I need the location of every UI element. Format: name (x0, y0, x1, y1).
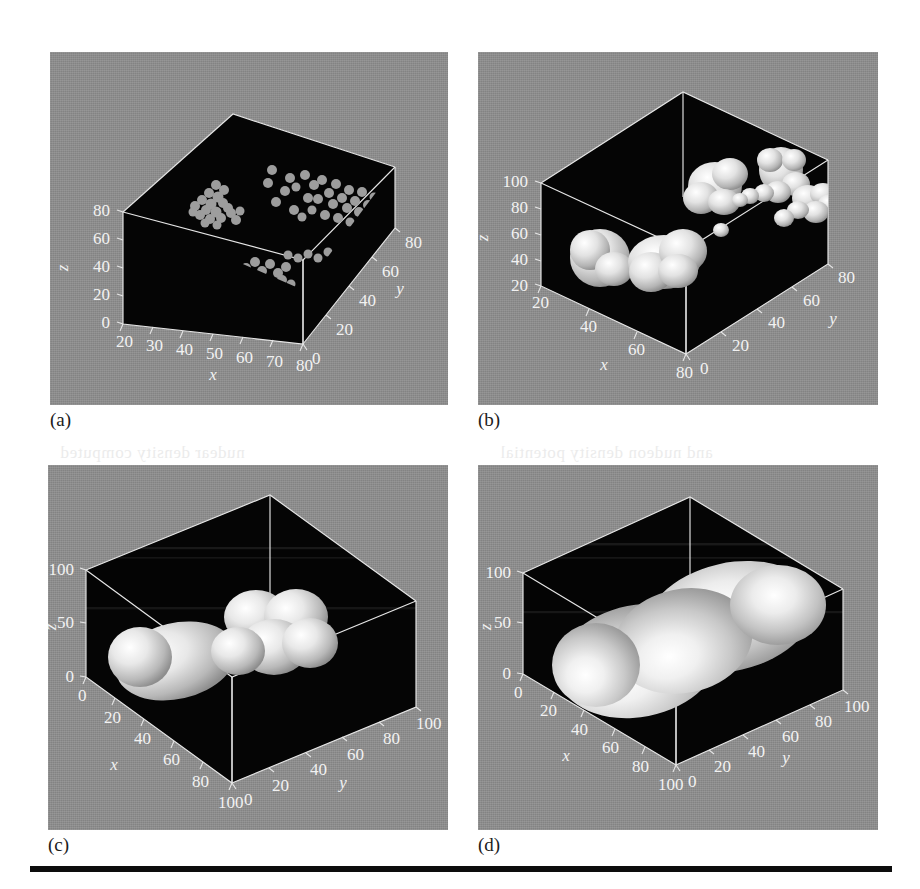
svg-text:0: 0 (78, 686, 87, 705)
svg-text:80: 80 (815, 712, 832, 731)
svg-text:x: x (561, 746, 570, 765)
ghost-text-right: and nudeon density potential (500, 443, 713, 463)
svg-text:40: 40 (748, 742, 765, 761)
svg-text:0: 0 (66, 667, 75, 686)
svg-text:80: 80 (676, 363, 693, 382)
svg-text:z: z (53, 264, 72, 272)
svg-text:40: 40 (310, 760, 327, 779)
bottom-rule (30, 866, 892, 872)
svg-text:80: 80 (511, 198, 528, 217)
svg-text:100: 100 (658, 775, 684, 794)
svg-text:40: 40 (93, 257, 110, 276)
svg-text:40: 40 (134, 729, 151, 748)
svg-text:40: 40 (511, 250, 528, 269)
svg-text:80: 80 (296, 356, 313, 375)
panel-d-plot: 100 50 0 z 0 20 40 60 80 100 x 0 20 40 6… (478, 465, 878, 830)
svg-text:40: 40 (359, 291, 376, 310)
svg-text:100: 100 (486, 563, 512, 582)
svg-text:0: 0 (688, 772, 697, 791)
panel-c-plot: 100 50 0 z 0 20 40 60 80 100 x 0 20 40 6… (48, 465, 448, 830)
svg-text:y: y (780, 748, 790, 767)
svg-text:z: z (478, 234, 492, 242)
panel-d[interactable]: 100 50 0 z 0 20 40 60 80 100 x 0 20 40 6… (478, 465, 878, 830)
svg-text:80: 80 (93, 201, 110, 220)
svg-text:100: 100 (218, 793, 244, 812)
figure-grid: nudear density computed and nudeon densi… (0, 0, 920, 889)
svg-text:0: 0 (102, 313, 111, 332)
svg-text:60: 60 (163, 750, 180, 769)
svg-text:20: 20 (116, 332, 133, 351)
svg-text:40: 40 (571, 720, 588, 739)
svg-text:60: 60 (236, 348, 253, 367)
svg-text:80: 80 (838, 268, 855, 287)
panel-a-plot: 80 60 40 20 0 z 20 30 40 50 60 70 80 x 0… (50, 52, 448, 405)
svg-text:40: 40 (768, 313, 785, 332)
svg-text:80: 80 (383, 729, 400, 748)
panel-b-caption: (b) (478, 409, 500, 431)
svg-text:60: 60 (602, 738, 619, 757)
svg-text:20: 20 (511, 276, 528, 295)
svg-text:y: y (337, 773, 347, 792)
svg-text:x: x (599, 355, 608, 374)
svg-text:z: z (478, 623, 495, 631)
svg-text:100: 100 (49, 560, 75, 579)
svg-text:60: 60 (628, 340, 645, 359)
svg-text:100: 100 (503, 172, 529, 191)
svg-text:20: 20 (714, 757, 731, 776)
svg-text:50: 50 (494, 613, 511, 632)
svg-text:y: y (827, 309, 837, 328)
panel-d-caption: (d) (478, 834, 500, 856)
svg-text:50: 50 (206, 344, 223, 363)
svg-text:80: 80 (632, 757, 649, 776)
svg-text:80: 80 (192, 772, 209, 791)
panel-c-caption: (c) (48, 834, 69, 856)
svg-text:40: 40 (580, 317, 597, 336)
panel-a[interactable]: 80 60 40 20 0 z 20 30 40 50 60 70 80 x 0… (50, 52, 448, 405)
panel-a-caption: (a) (50, 409, 71, 431)
panel-c[interactable]: 100 50 0 z 0 20 40 60 80 100 x 0 20 40 6… (48, 465, 448, 830)
svg-text:60: 60 (511, 224, 528, 243)
svg-text:20: 20 (104, 708, 121, 727)
svg-text:100: 100 (416, 714, 442, 733)
svg-text:60: 60 (347, 745, 364, 764)
svg-text:0: 0 (312, 349, 321, 368)
svg-text:0: 0 (244, 790, 253, 809)
panel-b-plot: 100 80 60 40 20 z 20 40 60 80 x 0 20 40 … (478, 52, 878, 405)
panel-b[interactable]: 100 80 60 40 20 z 20 40 60 80 x 0 20 40 … (478, 52, 878, 405)
svg-text:20: 20 (732, 336, 749, 355)
svg-text:x: x (109, 755, 118, 774)
svg-text:100: 100 (844, 697, 870, 716)
svg-text:z: z (48, 623, 60, 631)
svg-text:20: 20 (272, 776, 289, 795)
svg-text:0: 0 (700, 359, 709, 378)
svg-text:60: 60 (803, 291, 820, 310)
svg-text:20: 20 (336, 320, 353, 339)
svg-text:80: 80 (405, 233, 422, 252)
svg-text:0: 0 (514, 683, 523, 702)
svg-text:30: 30 (146, 336, 163, 355)
svg-text:20: 20 (540, 701, 557, 720)
svg-text:y: y (394, 279, 404, 298)
svg-text:60: 60 (93, 229, 110, 248)
svg-text:70: 70 (266, 352, 283, 371)
svg-text:20: 20 (93, 285, 110, 304)
svg-text:60: 60 (782, 727, 799, 746)
ghost-text-left: nudear density computed (60, 443, 245, 463)
svg-text:40: 40 (176, 340, 193, 359)
svg-text:x: x (208, 365, 217, 384)
svg-text:20: 20 (532, 293, 549, 312)
svg-text:0: 0 (503, 664, 512, 683)
